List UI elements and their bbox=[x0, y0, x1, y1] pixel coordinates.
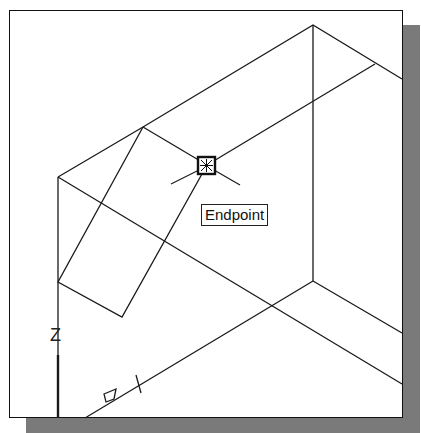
z-axis-label: Z bbox=[50, 325, 61, 346]
endpoint-snap-marker-icon bbox=[171, 157, 240, 185]
osnap-tooltip: Endpoint bbox=[201, 204, 268, 226]
